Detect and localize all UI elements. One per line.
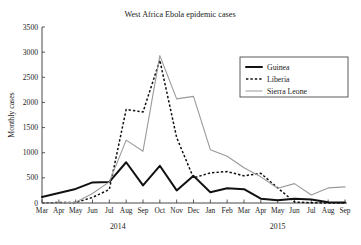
chart-legend: GuineaLiberiaSierra Leone [240,57,348,97]
y-tick-label: 1000 [23,148,38,157]
x-tick-label: May [271,206,285,215]
x-tick-label: Dec [188,206,201,215]
chart-title: West Africa Ebola epidemic cases [124,10,235,19]
x-axis: MarAprMayJunJulAugSepOctNovDecJanFebMarA… [36,200,351,232]
x-tick-label: Apr [53,206,65,215]
x-tick-label: Feb [222,206,233,215]
legend-item-guinea-label: Guinea [267,63,290,72]
y-tick-label: 500 [27,173,39,182]
y-axis-title: Monthly cases [7,92,16,137]
x-tick-label: Oct [154,206,166,215]
x-tick-label: May [69,206,83,215]
y-tick-label: 2500 [23,73,38,82]
x-tick-label: Aug [322,206,335,215]
chart-figure: West Africa Ebola epidemic cases Monthly… [0,0,361,245]
x-tick-label: Nov [170,206,183,215]
x-tick-label: Jul [105,206,114,215]
y-tick-label: 1500 [23,123,38,132]
x-axis-group-label: 2014 [110,222,126,231]
x-axis-group-label: 2015 [270,222,286,231]
x-tick-label: Jun [87,206,98,215]
x-tick-label: Mar [238,206,251,215]
x-tick-label: Jul [307,206,316,215]
x-tick-label: Sep [339,206,350,215]
line-chart: West Africa Ebola epidemic cases Monthly… [0,0,361,245]
x-tick-label: Mar [36,206,49,215]
y-tick-label: 3500 [23,23,38,32]
legend-item-liberia-label: Liberia [267,75,290,84]
y-tick-label: 2000 [23,98,38,107]
x-tick-label: Apr [255,206,267,215]
y-tick-label: 3000 [23,48,38,57]
x-tick-label: Jan [205,206,215,215]
legend-item-sierra-leone-label: Sierra Leone [267,87,308,96]
x-tick-label: Aug [120,206,133,215]
x-tick-label: Jun [289,206,300,215]
x-tick-label: Sep [137,206,148,215]
